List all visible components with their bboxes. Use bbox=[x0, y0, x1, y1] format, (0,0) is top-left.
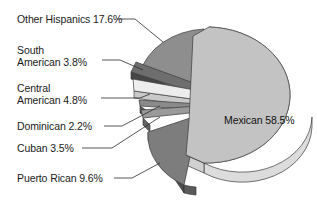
label-south-american-line2: American 3.8% bbox=[17, 56, 87, 68]
label-mexican: Mexican 58.5% bbox=[224, 114, 295, 126]
label-other-hispanics: Other Hispanics 17.6% bbox=[17, 13, 122, 25]
label-puerto-rican: Puerto Rican 9.6% bbox=[17, 172, 103, 184]
label-central-american-line2: American 4.8% bbox=[17, 94, 87, 106]
label-central-american-line1: Central bbox=[17, 82, 50, 94]
pie-chart-svg: Other Hispanics 17.6% South American 3.8… bbox=[0, 0, 317, 207]
label-cuban: Cuban 3.5% bbox=[17, 142, 74, 154]
label-dominican: Dominican 2.2% bbox=[17, 120, 92, 132]
pie-chart-figure: Other Hispanics 17.6% South American 3.8… bbox=[0, 0, 317, 207]
label-south-american-line1: South bbox=[17, 44, 44, 56]
